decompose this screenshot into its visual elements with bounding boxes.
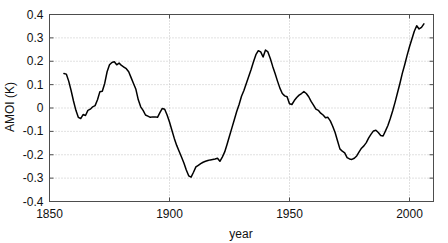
chart-figure: -0.4-0.3-0.2-0.100.10.20.30.4 1850190019… bbox=[0, 0, 448, 243]
y-tick-label: 0.2 bbox=[27, 54, 44, 68]
amoi-time-series-chart: -0.4-0.3-0.2-0.100.10.20.30.4 1850190019… bbox=[0, 0, 448, 243]
x-tick-label: 2000 bbox=[396, 207, 423, 221]
x-tick-label: 1900 bbox=[156, 207, 183, 221]
y-tick-label: -0.1 bbox=[23, 124, 44, 138]
y-tick-label: 0.4 bbox=[27, 8, 44, 22]
x-tick-label: 1950 bbox=[276, 207, 303, 221]
y-tick-label: 0 bbox=[37, 101, 44, 115]
x-axis-title: year bbox=[229, 227, 252, 241]
y-tick-label: 0.3 bbox=[27, 31, 44, 45]
y-tick-label: -0.2 bbox=[23, 148, 44, 162]
y-tick-label: -0.3 bbox=[23, 171, 44, 185]
y-tick-label: 0.1 bbox=[27, 78, 44, 92]
chart-background bbox=[0, 0, 448, 243]
x-tick-label: 1850 bbox=[36, 207, 63, 221]
y-axis-title: AMOI (K) bbox=[3, 82, 17, 132]
